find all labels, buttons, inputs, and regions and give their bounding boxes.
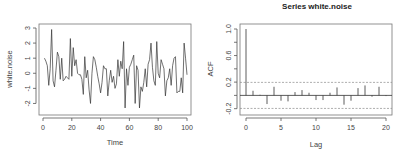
y-axis-label: ACF [206,61,215,76]
series-line [44,30,187,108]
figure: 020406080100 -2-10123 Time white.noise S… [0,0,398,164]
y-tick-label: 0.6 [225,51,232,61]
y-tick-label: 1.0 [225,24,232,34]
x-tick-label: 100 [181,124,193,131]
x-axis-label: Lag [310,140,323,149]
y-tick-label: 0.2 [225,77,232,87]
x-tick-label: 15 [347,124,355,131]
y-tick-label: -2 [24,100,31,106]
x-tick-label: 0 [244,124,248,131]
y-tick-label: 2 [24,41,31,45]
x-tick-label: 40 [97,124,105,131]
plot-box [39,24,191,115]
plot-box [240,24,392,115]
y-axis-label: white.noise [5,50,14,89]
acf-panel: Series white.noise 05101520 -0.20.20.61.… [206,2,392,149]
x-tick-label: 5 [279,124,283,131]
y-tick-label: -1 [24,85,31,91]
x-axis-label: Time [107,138,123,147]
y-tick-label: 1 [24,56,31,60]
x-tick-label: 60 [126,124,134,131]
x-tick-label: 10 [312,124,320,131]
time-series-panel: 020406080100 -2-10123 Time white.noise [5,24,193,147]
x-tick-label: 20 [68,124,76,131]
y-tick-label: 3 [24,26,31,30]
x-tick-label: 20 [382,124,390,131]
chart-title: Series white.noise [282,2,352,11]
x-tick-label: 80 [154,124,162,131]
x-tick-label: 0 [41,124,45,131]
y-tick-label: 0 [24,71,31,75]
y-tick-label: -0.2 [225,103,232,115]
